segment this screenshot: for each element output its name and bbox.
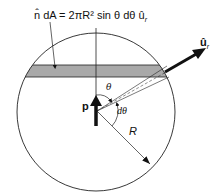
radius-label: R [129, 125, 137, 137]
theta-label: θ [106, 82, 111, 92]
unit-vector-label: ûr [200, 36, 209, 50]
dipole-sphere-diagram: n̂ dA = 2πR² sin θ dθ ûr ûr p θ dθ R [0, 0, 218, 196]
dtheta-label: dθ [117, 105, 127, 116]
surface-band [10, 65, 190, 77]
dipole-label: p [82, 100, 89, 112]
area-element-equation: n̂ dA = 2πR² sin θ dθ ûr [34, 9, 147, 23]
diagram-graphic [0, 0, 218, 196]
